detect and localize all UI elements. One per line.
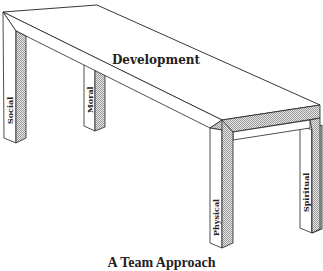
leg-label-physical: Physical [211,199,221,236]
tabletop-label: Development [112,53,201,67]
tabletop [3,5,320,140]
figure-caption: A Team Approach [0,255,323,271]
leg-label-spiritual: Spiritual [301,173,311,212]
leg-label-moral: Moral [85,86,95,113]
leg-label-social: Social [5,97,15,124]
